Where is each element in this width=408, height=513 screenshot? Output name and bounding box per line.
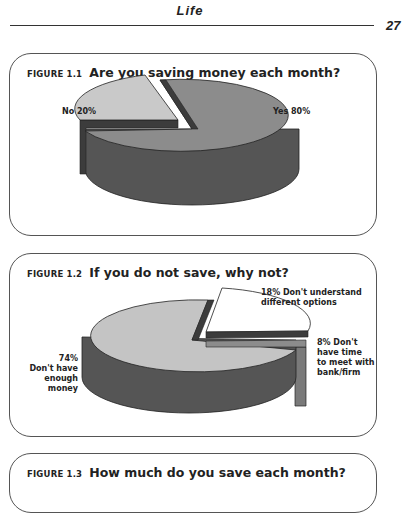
label-time-line1: 8% Don't — [317, 338, 375, 348]
figure-1-1: FIGURE 1.1 Are you saving money each mon… — [9, 53, 377, 236]
figure-label: FIGURE 1.3 — [27, 469, 82, 479]
label-money-line1: 74% — [25, 354, 78, 364]
page-number: 27 — [386, 18, 400, 33]
label-time-line4: bank/firm — [317, 368, 375, 378]
label-money: 74% Don't have enough money — [25, 354, 78, 394]
label-understand: 18% Don't understand different options — [261, 288, 362, 308]
label-understand-line1: 18% Don't understand — [261, 288, 362, 298]
header-rule — [10, 25, 374, 26]
figure-question: How much do you save each month? — [89, 465, 345, 480]
label-time-line3: to meet with — [317, 358, 375, 368]
running-head: Life — [0, 3, 380, 18]
figure-title: FIGURE 1.3 How much do you save each mon… — [27, 462, 346, 481]
figure-1-2: FIGURE 1.2 If you do not save, why not? … — [9, 253, 377, 437]
pie-slice-time — [206, 340, 306, 347]
pie-side-understand — [206, 331, 308, 338]
label-yes: Yes 80% — [273, 107, 310, 117]
label-time-line2: have time — [317, 348, 375, 358]
label-money-line3: enough — [25, 374, 78, 384]
label-money-line2: Don't have — [25, 364, 78, 374]
label-time: 8% Don't have time to meet with bank/fir… — [317, 338, 375, 378]
label-understand-line2: different options — [261, 298, 362, 308]
label-money-line4: money — [25, 384, 78, 394]
figure-1-3: FIGURE 1.3 How much do you save each mon… — [9, 453, 377, 513]
pie-chart-saving — [10, 54, 378, 237]
label-no: No 20% — [62, 107, 96, 117]
